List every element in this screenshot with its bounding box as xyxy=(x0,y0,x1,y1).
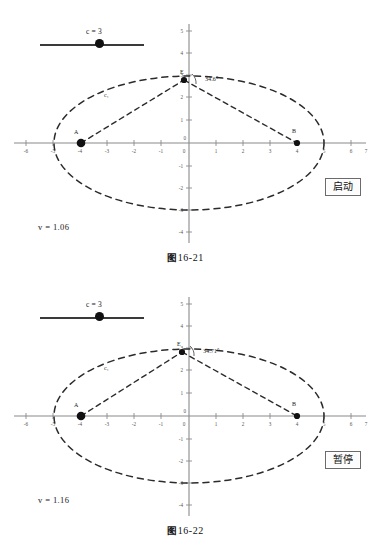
x-tick-3: 3 xyxy=(269,421,272,427)
geogebra-applet-2[interactable]: -6 -5 -4 -3 -2 -1 0 1 2 3 4 5 6 7 xyxy=(0,273,371,521)
y-tick--2: -2 xyxy=(179,185,184,191)
point-a-label: A xyxy=(74,129,79,135)
caption-number: 16-22 xyxy=(178,525,204,536)
x-tick--4: -4 xyxy=(78,148,83,154)
y-tick--4: -4 xyxy=(179,502,184,508)
y-tick--2: -2 xyxy=(179,458,184,464)
point-e-label: E xyxy=(180,69,184,75)
point-a-label: A xyxy=(74,402,79,408)
y-tick-2: 2 xyxy=(180,367,183,373)
pause-button[interactable]: 暂停 xyxy=(325,451,361,469)
caption-prefix: 图 xyxy=(167,525,178,536)
slider-knob[interactable] xyxy=(95,312,104,321)
x-tick--3: -3 xyxy=(105,148,110,154)
velocity-readout: v = 1.16 xyxy=(38,495,69,505)
segment-a-e xyxy=(81,352,182,416)
caption-prefix: 图 xyxy=(167,252,178,263)
y-tick-labels: 5 4 3 2 1 0 -1 -2 -3 -4 xyxy=(179,28,187,235)
figure-16-22: -6 -5 -4 -3 -2 -1 0 1 2 3 4 5 6 7 xyxy=(0,273,371,546)
y-tick--1: -1 xyxy=(179,163,184,169)
curve-c1-label: c₁ xyxy=(104,365,109,371)
x-tick-6: 6 xyxy=(350,148,353,154)
x-tick--2: -2 xyxy=(132,421,137,427)
y-tick-2: 2 xyxy=(180,94,183,100)
point-b[interactable] xyxy=(294,140,300,146)
x-tick-7: 7 xyxy=(365,148,368,154)
x-tick-labels: -6 -5 -4 -3 -2 -1 0 1 2 3 4 5 6 xyxy=(24,148,353,154)
point-e-label: E xyxy=(177,341,181,347)
point-a[interactable] xyxy=(77,412,86,421)
y-tick--1: -1 xyxy=(179,436,184,442)
x-tick--6: -6 xyxy=(24,148,29,154)
y-tick-5: 5 xyxy=(180,301,183,307)
x-tick-labels: -6 -5 -4 -3 -2 -1 0 1 2 3 4 5 6 xyxy=(24,421,353,427)
velocity-readout: v = 1.06 xyxy=(38,222,69,232)
x-tick--1: -1 xyxy=(159,421,164,427)
geogebra-applet-1[interactable]: -6 -5 -4 -3 -2 -1 0 1 2 3 4 5 6 7 xyxy=(0,0,371,248)
slider-track[interactable] xyxy=(40,317,144,319)
y-tick-labels: 5 4 3 2 1 0 -1 -2 -3 -4 xyxy=(179,301,187,508)
figure-caption-1: 图16-21 xyxy=(0,250,371,264)
segment-e-b xyxy=(182,352,297,416)
x-tick--2: -2 xyxy=(132,148,137,154)
caption-number: 16-21 xyxy=(178,252,204,263)
figure-caption-2: 图16-22 xyxy=(0,523,371,537)
start-button[interactable]: 启动 xyxy=(325,178,361,196)
c-slider-label: c = 3 xyxy=(86,300,102,309)
angle-arc xyxy=(190,346,194,356)
y-tick-0: 0 xyxy=(183,135,186,141)
y-tick-1: 1 xyxy=(180,117,183,123)
point-b[interactable] xyxy=(294,413,300,419)
y-tick--4: -4 xyxy=(179,229,184,235)
segment-a-e xyxy=(81,80,184,143)
x-tick-4: 4 xyxy=(296,148,299,154)
point-b-label: B xyxy=(292,128,296,134)
c-slider-1[interactable]: c = 3 xyxy=(40,38,144,52)
c-slider-label: c = 3 xyxy=(86,27,102,36)
x-tick-4: 4 xyxy=(296,421,299,427)
x-tick-3: 3 xyxy=(269,148,272,154)
point-e[interactable] xyxy=(181,77,187,83)
y-tick-1: 1 xyxy=(180,390,183,396)
x-tick-1: 1 xyxy=(215,148,218,154)
point-e[interactable] xyxy=(179,349,185,355)
slider-track[interactable] xyxy=(40,44,144,46)
figure-16-21: -6 -5 -4 -3 -2 -1 0 1 2 3 4 5 6 7 xyxy=(0,0,371,273)
curve-c1-label: c₁ xyxy=(104,92,109,98)
point-b-label: B xyxy=(292,401,296,407)
y-tick-5: 5 xyxy=(180,28,183,34)
y-tick-4: 4 xyxy=(180,323,183,329)
y-tick-0: 0 xyxy=(183,408,186,414)
x-tick-2: 2 xyxy=(242,421,245,427)
angle-annotation: 34.71° xyxy=(203,347,220,354)
x-tick-7: 7 xyxy=(365,421,368,427)
x-tick-0: 0 xyxy=(183,148,186,154)
x-tick-2: 2 xyxy=(242,148,245,154)
x-tick--4: -4 xyxy=(78,421,83,427)
segment-e-b xyxy=(184,80,297,143)
y-tick-4: 4 xyxy=(180,50,183,56)
x-tick-0: 0 xyxy=(183,421,186,427)
point-a[interactable] xyxy=(77,139,86,148)
slider-knob[interactable] xyxy=(95,39,104,48)
x-tick--1: -1 xyxy=(159,148,164,154)
c-slider-2[interactable]: c = 3 xyxy=(40,311,144,325)
angle-annotation: 34.6° xyxy=(205,75,219,82)
x-tick-1: 1 xyxy=(215,421,218,427)
x-tick-6: 6 xyxy=(350,421,353,427)
x-tick--6: -6 xyxy=(24,421,29,427)
x-tick--3: -3 xyxy=(105,421,110,427)
